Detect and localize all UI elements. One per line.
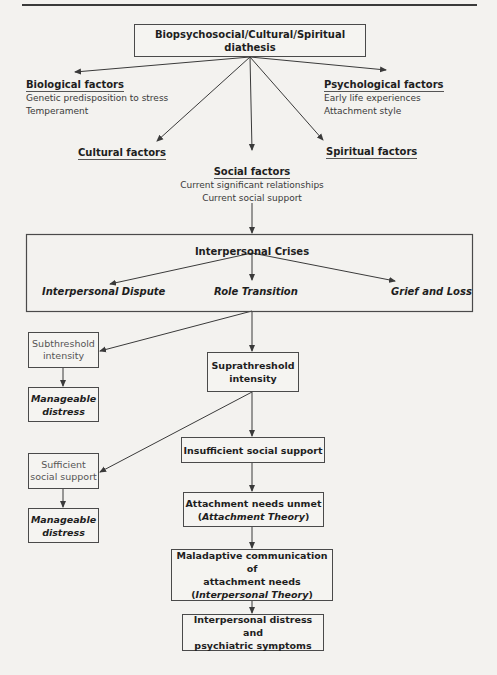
interpersonal-theory-line: (Interpersonal Theory) xyxy=(191,588,313,601)
outcome-line: Interpersonal distress and xyxy=(183,613,323,639)
sufficient-line: Sufficient xyxy=(41,459,86,472)
crisis-role-transition: Role Transition xyxy=(214,286,298,297)
outcome-box: Interpersonal distress and psychiatric s… xyxy=(182,614,324,651)
social-factors: Social factors Current significant relat… xyxy=(152,160,352,204)
psychological-item: Attachment style xyxy=(324,105,444,118)
attachment-line: Attachment needs unmet xyxy=(185,497,321,510)
spiritual-factors: Spiritual factors xyxy=(326,140,417,159)
interpersonal-theory: Interpersonal Theory xyxy=(196,589,309,600)
crises-title-text: Interpersonal Crises xyxy=(195,246,309,257)
cultural-heading: Cultural factors xyxy=(78,147,166,160)
social-heading: Social factors xyxy=(214,166,291,179)
attachment-theory-line: (Attachment Theory) xyxy=(198,510,309,523)
psychological-heading: Psychological factors xyxy=(324,79,444,92)
manageable-line: distress xyxy=(42,405,85,418)
attachment-needs-box: Attachment needs unmet (Attachment Theor… xyxy=(183,492,324,527)
manageable-distress-box-1: Manageable distress xyxy=(28,387,99,422)
maladaptive-communication-box: Maladaptive communication of attachment … xyxy=(171,549,333,601)
manageable-distress-box-2: Manageable distress xyxy=(28,508,99,543)
cultural-factors: Cultural factors xyxy=(78,141,166,160)
insufficient-support-box: Insufficient social support xyxy=(181,437,325,463)
manageable-line: Manageable xyxy=(31,392,96,405)
subthreshold-line: Subthreshold xyxy=(32,338,95,351)
attachment-theory: Attachment Theory xyxy=(202,511,305,522)
psychological-factors: Psychological factors Early life experie… xyxy=(324,73,444,117)
biological-item: Temperament xyxy=(26,105,168,118)
biological-factors: Biological factors Genetic predispositio… xyxy=(26,73,168,117)
social-item: Current significant relationships xyxy=(152,179,352,192)
outcome-line: psychiatric symptoms xyxy=(194,639,311,652)
subthreshold-box: Subthreshold intensity xyxy=(28,332,99,368)
social-item: Current social support xyxy=(152,192,352,205)
diathesis-title: Biopsychosocial/Cultural/Spiritual diath… xyxy=(135,28,365,54)
manageable-line: Manageable xyxy=(31,513,96,526)
psychological-item: Early life experiences xyxy=(324,92,444,105)
biological-heading: Biological factors xyxy=(26,79,124,92)
insufficient-support-text: Insufficient social support xyxy=(183,444,322,457)
suprathreshold-line: intensity xyxy=(229,372,276,385)
manageable-line: distress xyxy=(42,526,85,539)
suprathreshold-line: Suprathreshold xyxy=(212,359,295,372)
crises-title: Interpersonal Crises xyxy=(152,240,352,259)
sufficient-line: social support xyxy=(30,471,97,484)
spiritual-heading: Spiritual factors xyxy=(326,146,417,159)
crisis-grief-and-loss: Grief and Loss xyxy=(391,286,472,297)
maladaptive-line: attachment needs xyxy=(203,575,300,588)
suprathreshold-box: Suprathreshold intensity xyxy=(207,352,299,392)
subthreshold-line: intensity xyxy=(43,350,84,363)
maladaptive-line: Maladaptive communication of xyxy=(172,549,332,575)
biological-item: Genetic predisposition to stress xyxy=(26,92,168,105)
diathesis-box: Biopsychosocial/Cultural/Spiritual diath… xyxy=(134,24,366,57)
crisis-interpersonal-dispute: Interpersonal Dispute xyxy=(42,286,165,297)
sufficient-support-box: Sufficient social support xyxy=(28,453,99,489)
